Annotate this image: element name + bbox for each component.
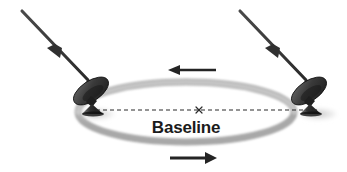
antenna-right-foot — [300, 112, 322, 117]
baseline-label: Baseline — [152, 118, 220, 137]
rotation-arrow-bottom-head-icon — [205, 152, 217, 164]
rotation-arrow-top — [168, 65, 216, 75]
figure-canvas: Baseline — [0, 0, 347, 172]
incoming-wavefront-ray-left — [22, 11, 88, 80]
baseline-diagram: Baseline — [0, 0, 347, 172]
ray-left-arrowhead-icon — [47, 44, 62, 58]
antenna-left-foot — [82, 112, 104, 117]
rotation-arrow-bottom — [170, 152, 217, 164]
ray-right-arrowhead-icon — [265, 44, 280, 58]
incoming-wavefront-ray-right — [240, 11, 306, 80]
rotation-arrow-top-head-icon — [168, 65, 180, 75]
ring-back-arc — [78, 82, 294, 112]
